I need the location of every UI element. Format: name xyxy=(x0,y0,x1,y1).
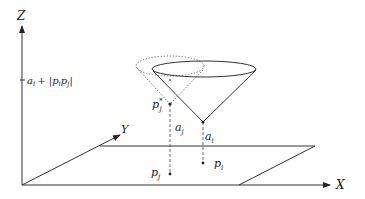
solid-cone-right xyxy=(203,70,256,122)
x-axis-label: X xyxy=(335,178,345,192)
diagram-svg: Z ai+ |pipj| X Y p*j aj ai pi pj xyxy=(0,0,365,199)
z-tick-label: ai+ |pipj| xyxy=(27,75,73,88)
y-axis xyxy=(22,135,120,185)
y-axis-label: Y xyxy=(121,123,130,136)
label-a-j: aj xyxy=(175,121,185,136)
point-p-j xyxy=(169,173,172,176)
z-axis-label: Z xyxy=(16,9,26,23)
point-p-j-star xyxy=(168,102,171,105)
label-p-j: pj xyxy=(151,166,161,181)
plane-right-edge xyxy=(239,146,315,185)
dotted-cone-right xyxy=(170,70,203,104)
label-p-i: pi xyxy=(214,157,223,172)
dotted-cone-center xyxy=(169,79,171,81)
point-apex-i xyxy=(201,120,204,123)
solid-cone-rim xyxy=(152,61,256,77)
dotted-cone-rim xyxy=(136,56,204,76)
label-p-j-star: p*j xyxy=(152,97,163,113)
label-a-i: ai xyxy=(205,130,214,145)
cone-diagram: Z ai+ |pipj| X Y p*j aj ai pi pj xyxy=(0,0,365,199)
point-p-i xyxy=(202,162,205,165)
